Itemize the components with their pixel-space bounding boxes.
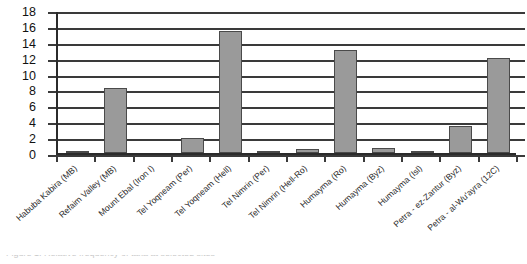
- y-tick-label-18: 18: [22, 6, 36, 18]
- bar-0: [66, 151, 89, 153]
- bar-9: [411, 151, 434, 153]
- bar-8: [372, 148, 395, 153]
- y-axis: 181614121086420: [0, 0, 52, 167]
- bar-chart-figure: 181614121086420 Habuba Kabira (MB)Refaim…: [0, 0, 527, 264]
- y-tick-label-10: 10: [22, 70, 36, 82]
- x-tick-7: [324, 155, 326, 162]
- x-tick-3: [171, 155, 173, 162]
- right-tick-mark-2: [516, 139, 525, 141]
- x-tick-5: [248, 155, 250, 162]
- bar-6: [296, 149, 319, 153]
- right-tick-mark-16: [516, 28, 525, 30]
- y-tick-mark-16: [48, 28, 56, 30]
- bar-1: [104, 88, 127, 153]
- y-tick-label-12: 12: [22, 54, 36, 66]
- right-tick-mark-12: [516, 60, 525, 62]
- gridline-18: [58, 12, 516, 14]
- y-tick-mark-12: [48, 60, 56, 62]
- x-tick-6: [286, 155, 288, 162]
- right-tick-mark-0: [516, 155, 525, 157]
- clipped-caption: Figure 1. Relative frequency of taxa at …: [0, 255, 527, 264]
- bar-11: [487, 58, 510, 153]
- y-tick-label-0: 0: [29, 149, 36, 161]
- bar-5: [257, 151, 280, 153]
- y-tick-label-2: 2: [29, 133, 36, 145]
- y-tick-mark-10: [48, 76, 56, 78]
- right-tick-mark-6: [516, 107, 525, 109]
- y-tick-label-4: 4: [29, 117, 36, 129]
- y-tick-mark-4: [48, 123, 56, 125]
- x-tick-0: [56, 155, 58, 162]
- y-tick-mark-0: [48, 155, 56, 157]
- x-tick-9: [401, 155, 403, 162]
- x-label-text-10: Petra - ez-Zantur (Byz): [391, 163, 463, 229]
- y-tick-mark-8: [48, 91, 56, 93]
- y-tick-mark-14: [48, 44, 56, 46]
- gridline-10: [58, 76, 516, 78]
- y-tick-label-14: 14: [22, 38, 36, 50]
- x-tick-1: [94, 155, 96, 162]
- plot-area: [56, 12, 516, 155]
- bar-10: [449, 126, 472, 153]
- gridline-12: [58, 60, 516, 62]
- right-tick-mark-18: [516, 12, 525, 14]
- x-tick-4: [209, 155, 211, 162]
- right-tick-mark-14: [516, 44, 525, 46]
- x-tick-11: [478, 155, 480, 162]
- right-tick-mark-8: [516, 91, 525, 93]
- bar-3: [181, 138, 204, 153]
- caption-text: Figure 1. Relative frequency of taxa at …: [6, 255, 215, 258]
- y-tick-label-6: 6: [29, 101, 36, 113]
- y-tick-label-8: 8: [29, 85, 36, 97]
- bar-7: [334, 50, 357, 153]
- x-axis-labels: Habuba Kabira (MB)Refaim Valley (MB)Moun…: [0, 163, 527, 253]
- y-tick-mark-18: [48, 12, 56, 14]
- gridline-16: [58, 28, 516, 30]
- y-tick-label-16: 16: [22, 22, 36, 34]
- x-tick-2: [133, 155, 135, 162]
- bar-4: [219, 31, 242, 153]
- x-axis-label-11: Petra - al-Wu'ayra (12C): [426, 164, 501, 233]
- y-tick-mark-2: [48, 139, 56, 141]
- y-tick-mark-6: [48, 107, 56, 109]
- right-tick-mark-4: [516, 123, 525, 125]
- x-label-text-11: Petra - al-Wu'ayra (12C): [425, 163, 501, 232]
- x-tick-8: [363, 155, 365, 162]
- x-axis-label-10: Petra - ez-Zantur (Byz): [392, 164, 463, 229]
- gridline-14: [58, 44, 516, 46]
- right-tick-mark-10: [516, 76, 525, 78]
- x-tick-10: [439, 155, 441, 162]
